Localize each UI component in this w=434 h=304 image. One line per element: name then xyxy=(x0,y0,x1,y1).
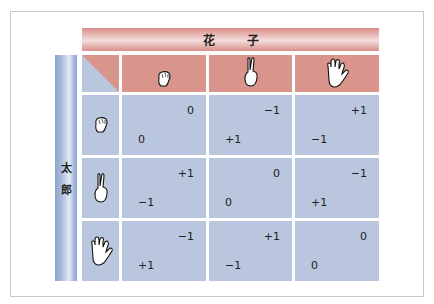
hanako-payoff: −1 xyxy=(178,230,194,243)
payoff-cell-paper-scissors: +1 −1 xyxy=(209,221,292,281)
scissors-hand-icon xyxy=(242,56,260,88)
column-header-scissors xyxy=(209,55,292,92)
row-header-scissors xyxy=(82,158,119,218)
rock-hand-icon xyxy=(92,115,110,135)
corner-diagonal-cell xyxy=(82,55,119,92)
sidebar-label-ta: 太 xyxy=(55,159,77,175)
row-header-paper xyxy=(82,221,119,281)
hanako-payoff: +1 xyxy=(178,167,194,180)
hanako-payoff: +1 xyxy=(264,230,280,243)
payoff-cell-rock-paper: +1 −1 xyxy=(295,95,379,155)
hanako-payoff: 0 xyxy=(187,104,194,117)
taro-payoff: 0 xyxy=(138,133,145,146)
row-player-sidebar: 太 郎 xyxy=(55,55,77,281)
taro-payoff: +1 xyxy=(311,196,327,209)
taro-payoff: −1 xyxy=(138,196,154,209)
banner-label-ko: 子 xyxy=(247,31,259,48)
payoff-cell-paper-rock: −1 +1 xyxy=(122,221,206,281)
hanako-payoff: +1 xyxy=(351,104,367,117)
column-header-paper xyxy=(295,55,379,92)
paper-hand-icon xyxy=(323,58,351,88)
taro-payoff: +1 xyxy=(138,259,154,272)
payoff-cell-paper-paper: 0 0 xyxy=(295,221,379,281)
payoff-cell-rock-scissors: −1 +1 xyxy=(209,95,292,155)
hanako-payoff: 0 xyxy=(273,167,280,180)
hanako-payoff: −1 xyxy=(264,104,280,117)
payoff-cell-rock-rock: 0 0 xyxy=(122,95,206,155)
rock-hand-icon xyxy=(155,70,173,88)
taro-payoff: +1 xyxy=(225,133,241,146)
paper-hand-icon xyxy=(87,236,115,266)
sidebar-label-ro: 郎 xyxy=(55,181,77,197)
taro-payoff: 0 xyxy=(311,259,318,272)
row-header-rock xyxy=(82,95,119,155)
taro-payoff: 0 xyxy=(225,196,232,209)
taro-payoff: −1 xyxy=(311,133,327,146)
payoff-cell-scissors-paper: −1 +1 xyxy=(295,158,379,218)
payoff-cell-scissors-scissors: 0 0 xyxy=(209,158,292,218)
column-header-rock xyxy=(122,55,206,92)
payoff-cell-scissors-rock: +1 −1 xyxy=(122,158,206,218)
column-player-banner: 花 子 xyxy=(82,28,379,51)
hanako-payoff: 0 xyxy=(360,230,367,243)
hanako-payoff: −1 xyxy=(351,167,367,180)
scissors-hand-icon xyxy=(92,172,110,204)
banner-label-hana: 花 xyxy=(203,31,215,48)
taro-payoff: −1 xyxy=(225,259,241,272)
